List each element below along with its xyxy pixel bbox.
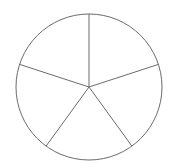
segmented-circle-diagram xyxy=(0,0,175,164)
pie-divisions xyxy=(16,14,162,160)
